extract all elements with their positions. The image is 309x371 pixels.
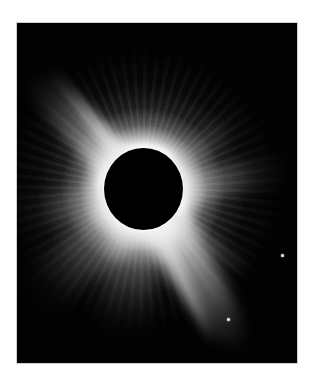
canvas	[0, 0, 309, 371]
upper-left-streamer	[16, 62, 157, 203]
inner-corona	[17, 23, 297, 363]
bottom-streamer	[94, 200, 168, 347]
upper-left-thin-streamer	[45, 63, 148, 190]
right-streamer	[140, 152, 293, 213]
lower-left-streamer	[16, 185, 159, 320]
upper-right-streamer	[135, 109, 242, 205]
star-right	[281, 254, 284, 257]
star-lower	[227, 318, 230, 321]
lunar-disk	[104, 148, 183, 230]
lower-right-secondary-streamer	[137, 185, 251, 279]
eclipse-photo	[16, 22, 298, 364]
corona-rays	[17, 23, 297, 363]
lower-right-thin-streamer	[138, 187, 218, 347]
lower-right-streamer	[123, 180, 260, 361]
left-streamer	[16, 179, 145, 231]
